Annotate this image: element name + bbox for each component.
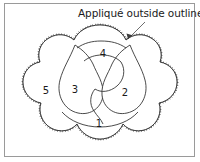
region-label-5: 5 bbox=[43, 85, 49, 96]
region-label-2: 2 bbox=[122, 87, 128, 98]
region-label-1: 1 bbox=[96, 118, 102, 129]
region-label-4: 4 bbox=[100, 48, 106, 59]
region-label-3: 3 bbox=[72, 84, 78, 95]
appliqué-pattern-illustration: 1 2 3 4 5 bbox=[0, 0, 200, 162]
diagram-page: Appliqué outside outline. bbox=[0, 0, 200, 162]
